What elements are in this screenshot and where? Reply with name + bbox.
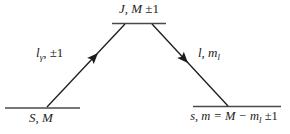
top-level-label-main: J, M xyxy=(119,1,142,16)
absorption-arrow-label: lγ, ±1 xyxy=(36,46,63,60)
bottom-left-level-label-text: S, M xyxy=(29,110,53,125)
level-diagram: J, M ±1 lγ, ±1 l, ml S, M s, m = M − ml … xyxy=(0,0,290,134)
top-level-label: J, M ±1 xyxy=(104,2,174,16)
absorption-arrow-label-subscript: γ xyxy=(40,52,44,62)
emission-arrow-label: l, ml xyxy=(198,46,220,60)
bottom-right-level-label-post: ±1 xyxy=(262,109,278,123)
top-level-label-rest: ±1 xyxy=(142,1,159,16)
bottom-right-level-label-pre: s, m = M − m xyxy=(190,109,259,123)
absorption-arrow-label-rest: , ±1 xyxy=(43,45,63,60)
bottom-right-level-label-subscript: l xyxy=(259,115,262,125)
absorption-arrow-line xyxy=(47,24,125,107)
bottom-right-level-label: s, m = M − ml ±1 xyxy=(183,110,285,124)
emission-arrow-label-subscript: l xyxy=(218,52,221,62)
emission-arrow-label-pre: l, m xyxy=(198,45,218,60)
emission-arrow-line xyxy=(152,24,228,106)
bottom-left-level-label: S, M xyxy=(10,111,72,125)
